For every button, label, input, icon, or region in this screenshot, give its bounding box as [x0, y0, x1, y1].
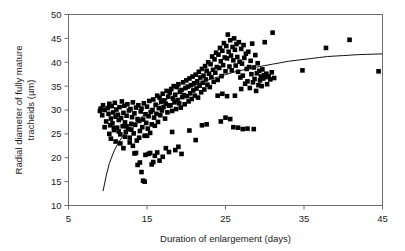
data-point-marker — [167, 150, 172, 155]
data-point-marker — [170, 109, 175, 114]
data-point-marker — [117, 105, 122, 110]
data-point-marker — [104, 119, 109, 124]
data-point-marker — [156, 120, 161, 125]
data-point-marker — [248, 59, 253, 64]
data-point-marker — [262, 40, 267, 45]
data-point-marker — [144, 121, 149, 126]
data-point-marker — [178, 105, 183, 110]
figure-container: 101520253035404550515253545Duration of e… — [0, 0, 405, 251]
data-point-marker — [129, 122, 134, 127]
data-point-marker — [220, 91, 225, 96]
data-point-marker — [265, 82, 270, 87]
data-point-marker — [160, 155, 165, 160]
data-point-marker — [100, 113, 105, 118]
data-point-marker — [107, 132, 112, 137]
y-axis-tick-label: 50 — [51, 9, 62, 20]
data-point-marker — [187, 128, 192, 133]
scatter-plot: 101520253035404550515253545Duration of e… — [0, 0, 405, 251]
data-point-marker — [223, 115, 228, 120]
data-point-marker — [147, 99, 152, 104]
data-point-marker — [145, 104, 150, 109]
data-point-marker — [226, 32, 231, 37]
y-axis-title-line-1: Radial diameter of fully mature — [13, 46, 24, 175]
data-point-marker — [176, 144, 181, 149]
data-point-marker — [229, 53, 234, 58]
data-point-marker — [165, 110, 170, 115]
data-point-marker — [225, 56, 230, 61]
data-point-marker — [240, 73, 245, 78]
data-point-marker — [221, 63, 226, 68]
data-point-marker — [228, 38, 233, 43]
data-point-marker — [142, 179, 147, 184]
y-axis-title-line-2: tracheids (µm) — [25, 80, 36, 141]
data-point-marker — [216, 52, 221, 57]
data-point-marker — [213, 70, 218, 75]
data-point-marker — [217, 66, 222, 71]
data-point-marker — [154, 112, 159, 117]
x-axis-tick-label: 25 — [220, 213, 231, 224]
data-point-marker — [208, 85, 213, 90]
data-point-marker — [163, 116, 168, 121]
data-point-marker — [193, 138, 198, 143]
data-point-marker — [260, 67, 265, 72]
data-point-marker — [112, 126, 117, 131]
data-point-marker — [168, 103, 173, 108]
data-point-marker — [231, 58, 236, 63]
data-point-marker — [160, 91, 165, 96]
data-point-marker — [145, 126, 150, 131]
data-point-marker — [109, 116, 114, 121]
data-point-marker — [215, 78, 220, 83]
data-point-marker — [218, 119, 223, 124]
data-point-marker — [245, 79, 250, 84]
data-point-marker — [272, 76, 277, 81]
data-point-marker — [139, 170, 144, 175]
data-point-marker — [239, 87, 244, 92]
y-axis-tick-label: 25 — [51, 128, 62, 139]
data-point-marker — [121, 146, 126, 151]
data-point-marker — [110, 121, 115, 126]
data-point-marker — [119, 116, 124, 121]
data-point-marker — [223, 69, 228, 74]
data-point-marker — [128, 107, 133, 112]
data-point-marker — [228, 117, 233, 122]
data-point-marker — [151, 97, 156, 102]
data-point-marker — [182, 102, 187, 107]
data-point-marker — [211, 80, 216, 85]
data-point-marker — [212, 57, 217, 62]
data-point-marker — [236, 125, 241, 130]
x-axis-tick-label: 35 — [299, 213, 310, 224]
data-point-marker — [139, 106, 144, 111]
data-point-marker — [200, 123, 205, 128]
data-point-marker — [102, 125, 107, 130]
data-point-marker — [240, 127, 245, 132]
y-axis-tick-label: 40 — [51, 57, 62, 68]
data-point-marker — [176, 82, 181, 87]
data-point-marker — [254, 89, 259, 94]
data-point-marker — [253, 53, 258, 58]
data-point-marker — [249, 72, 254, 77]
data-point-marker — [242, 56, 247, 61]
data-point-marker — [245, 126, 250, 131]
data-point-marker — [127, 140, 132, 145]
data-point-marker — [250, 41, 255, 46]
x-axis-tick-label: 15 — [142, 213, 153, 224]
data-point-marker — [140, 125, 145, 130]
data-point-marker — [127, 135, 132, 140]
data-point-marker — [151, 160, 156, 165]
data-point-marker — [270, 70, 275, 75]
data-point-marker — [134, 151, 139, 156]
data-point-marker — [146, 114, 151, 119]
data-point-marker — [120, 99, 125, 104]
data-point-marker — [252, 77, 257, 82]
data-point-marker — [155, 150, 160, 155]
data-point-marker — [215, 93, 220, 98]
data-point-marker — [232, 36, 237, 41]
y-axis-tick-label: 15 — [51, 176, 62, 187]
data-point-marker — [241, 43, 246, 48]
data-point-marker — [174, 107, 179, 112]
data-point-marker — [177, 101, 182, 106]
data-point-marker — [224, 44, 229, 49]
data-point-marker — [145, 133, 150, 138]
data-point-marker — [196, 95, 201, 100]
data-point-marker — [240, 61, 245, 66]
